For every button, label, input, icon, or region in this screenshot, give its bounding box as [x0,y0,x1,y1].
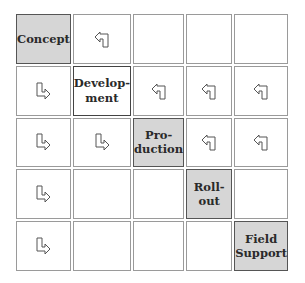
matrix-cell [186,221,232,271]
matrix-cell [234,14,288,64]
matrix-cell [73,118,131,168]
matrix-cell [133,66,184,116]
phase-cell: Pro- duction [133,118,184,168]
phase-label: Field Support [235,232,287,261]
arrow-back-icon [200,132,218,152]
matrix-cell [133,221,184,271]
matrix-cell [73,221,131,271]
matrix-cell [16,118,71,168]
arrow-forward-icon [34,81,52,101]
matrix-cell [133,169,184,219]
matrix-cell [73,14,131,64]
phase-label: Pro- duction [134,128,183,157]
phase-cell: Field Support [234,221,288,271]
phase-label: Concept [17,32,70,46]
arrow-back-icon [252,81,270,101]
arrow-back-icon [200,81,218,101]
matrix-cell [186,66,232,116]
arrow-forward-icon [34,132,52,152]
matrix-cell [186,14,232,64]
matrix-cell [234,66,288,116]
matrix-cell [234,118,288,168]
phase-cell: Concept [16,14,71,64]
matrix-cell [73,169,131,219]
phase-cell: Roll-out [186,169,232,219]
matrix-cell [16,66,71,116]
phase-label: Develop- ment [74,76,130,105]
phase-matrix-grid: ConceptDevelop- mentPro- ductionRoll-out… [16,14,288,271]
arrow-back-icon [252,132,270,152]
matrix-cell [16,169,71,219]
matrix-cell [234,169,288,219]
matrix-cell [16,221,71,271]
matrix-cell [133,14,184,64]
arrow-forward-icon [34,236,52,256]
phase-cell: Develop- ment [73,66,131,116]
arrow-back-icon [150,81,168,101]
arrow-back-icon [93,29,111,49]
matrix-cell [186,118,232,168]
arrow-forward-icon [34,184,52,204]
arrow-forward-icon [93,132,111,152]
phase-label: Roll-out [187,180,231,209]
